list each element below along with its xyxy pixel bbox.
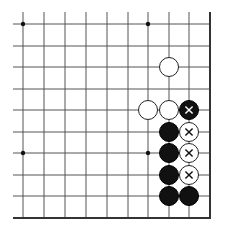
- white-stone: [138, 100, 158, 120]
- x-mark-icon: [180, 101, 198, 119]
- black-stone: [159, 186, 179, 206]
- x-mark-icon: [180, 144, 198, 162]
- black-stone: [179, 186, 199, 206]
- star-point: [146, 22, 150, 26]
- star-point: [21, 22, 25, 26]
- star-point: [21, 151, 25, 155]
- white-stone: [159, 100, 179, 120]
- black-stone: [179, 100, 199, 120]
- white-stone: [179, 165, 199, 185]
- white-stone: [179, 122, 199, 142]
- x-mark-icon: [180, 166, 198, 184]
- black-stone: [159, 143, 179, 163]
- black-stone: [159, 165, 179, 185]
- white-stone: [179, 143, 199, 163]
- star-point: [146, 151, 150, 155]
- white-stone: [159, 57, 179, 77]
- go-board-diagram: [0, 0, 225, 235]
- x-mark-icon: [180, 123, 198, 141]
- black-stone: [159, 122, 179, 142]
